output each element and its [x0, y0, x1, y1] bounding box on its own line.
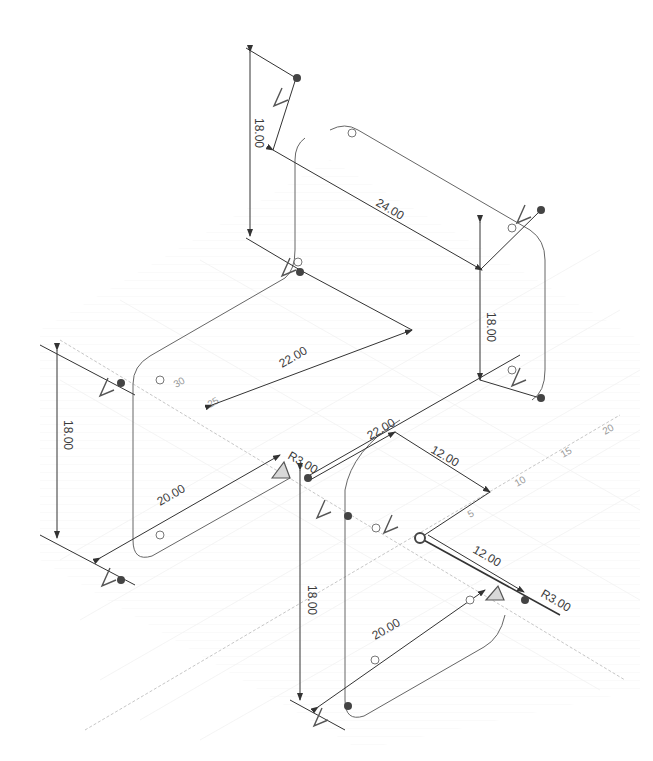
endpoint — [117, 379, 125, 387]
dim-top-left-height[interactable]: 18.00 — [252, 118, 266, 148]
midpoint — [156, 531, 164, 539]
dim-top-right-height[interactable]: 18.00 — [484, 312, 498, 342]
sketch-canvas[interactable]: 5 10 15 20 25 30 — [0, 0, 653, 761]
midpoint — [371, 656, 379, 664]
origin-point — [415, 533, 425, 543]
endpoint — [304, 474, 312, 482]
endpoint — [521, 596, 529, 604]
midpoint — [466, 596, 474, 604]
endpoint — [537, 206, 545, 214]
endpoint — [344, 702, 352, 710]
midpoint — [348, 129, 356, 137]
endpoint — [537, 394, 545, 402]
dim-bottom-height[interactable]: 18.00 — [305, 585, 319, 615]
endpoint — [117, 576, 125, 584]
midpoint — [508, 366, 516, 374]
endpoint — [296, 268, 304, 276]
perpendicular-icon — [274, 88, 288, 106]
perpendicular-icon — [517, 205, 531, 223]
midpoint — [508, 224, 516, 232]
endpoint — [344, 512, 352, 520]
ground-grid — [40, 160, 640, 750]
dim-left-height[interactable]: 18.00 — [61, 420, 75, 450]
midpoint — [294, 258, 302, 266]
midpoint — [156, 376, 164, 384]
endpoint — [293, 74, 301, 82]
midpoint — [372, 524, 380, 532]
